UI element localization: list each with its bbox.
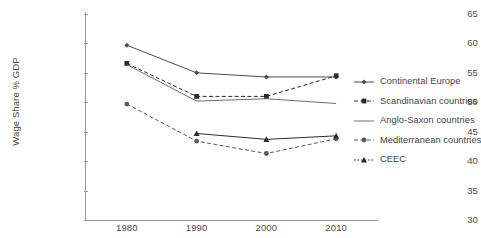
legend-triangle-icon xyxy=(353,154,375,166)
data-point-marker xyxy=(194,94,199,99)
legend-item-label: Anglo-Saxon countries xyxy=(380,115,475,126)
data-point-marker xyxy=(334,73,339,78)
legend-item-mediterranean-countries[interactable]: Mediterranean countries xyxy=(353,131,478,151)
series-line xyxy=(127,45,336,77)
legend-square-icon xyxy=(353,95,375,107)
series-line xyxy=(127,104,336,153)
series-line xyxy=(127,63,336,96)
data-point-marker xyxy=(194,139,199,144)
legend-item-label: Mediterranean countries xyxy=(380,135,481,146)
legend-none-icon xyxy=(353,115,375,127)
legend-item-scandinavian-countries[interactable]: Scandinavian countries xyxy=(353,92,478,112)
legend-item-continental-europe[interactable]: Continental Europe xyxy=(353,72,478,92)
legend-item-ceec[interactable]: CEEC xyxy=(353,150,478,170)
legend-item-label: Scandinavian countries xyxy=(380,96,477,107)
legend-circle-icon xyxy=(353,134,375,146)
legend-diamond-icon xyxy=(353,76,375,88)
chart-legend: Continental EuropeScandinavian countries… xyxy=(353,72,478,170)
caption-strip xyxy=(0,234,478,238)
data-point-marker xyxy=(264,94,269,99)
data-point-marker xyxy=(194,70,199,75)
data-point-marker xyxy=(124,102,129,107)
series-continental-europe xyxy=(124,43,338,80)
legend-item-label: CEEC xyxy=(380,154,406,165)
data-point-marker xyxy=(264,74,269,79)
series-ceec xyxy=(194,130,340,141)
series-anglo-saxon-countries xyxy=(127,65,336,104)
legend-item-anglo-saxon-countries[interactable]: Anglo-Saxon countries xyxy=(353,111,478,131)
data-point-marker xyxy=(264,151,269,156)
data-point-marker xyxy=(124,43,129,48)
series-mediterranean-countries xyxy=(124,102,338,156)
series-line xyxy=(127,65,336,104)
legend-item-label: Continental Europe xyxy=(380,76,461,87)
